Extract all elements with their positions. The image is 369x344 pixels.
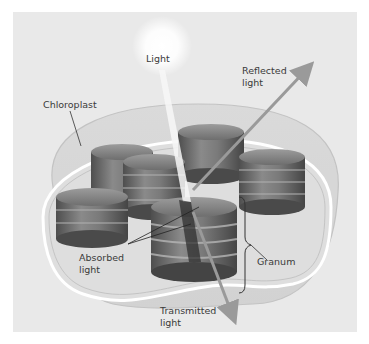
diagram-panel: Light Reflected light Chloroplast Absorb… <box>13 12 357 332</box>
granum-back-center <box>178 124 244 184</box>
transmitted-light-label-line1: Transmitted <box>160 305 216 317</box>
absorbed-light-label-line2: light <box>79 264 100 276</box>
transmitted-light-label-line2: light <box>160 317 181 329</box>
reflected-light-label-line2: light <box>242 77 263 89</box>
chloroplast-label: Chloroplast <box>43 99 97 111</box>
granum-label: Granum <box>257 256 295 268</box>
granum-left <box>56 188 128 248</box>
light-label: Light <box>146 53 170 65</box>
light-source-icon <box>132 16 192 76</box>
chloroplast-illustration <box>13 12 357 332</box>
granum-back-right <box>239 149 305 215</box>
absorbed-light-label-line1: Absorbed <box>79 252 124 264</box>
reflected-light-label-line1: Reflected <box>242 65 287 77</box>
